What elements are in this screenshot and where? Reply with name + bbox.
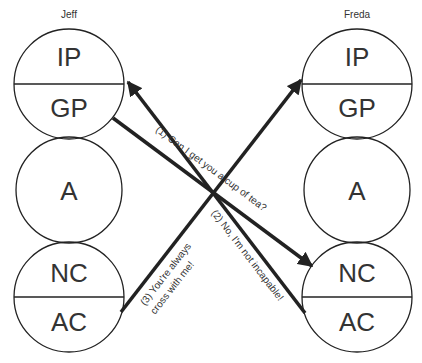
person-label-jeff: Jeff <box>61 9 77 20</box>
freda-nc-label: NC <box>338 258 376 288</box>
arrow-transaction-3 <box>121 80 301 312</box>
transaction-2-label: (2) No, I'm not incapable! <box>209 208 286 303</box>
ego-state-diagram: Jeff Freda IP GP A NC AC IP GP A NC AC (… <box>0 0 422 363</box>
jeff-ac-label: AC <box>51 307 87 337</box>
jeff-nc-label: NC <box>50 258 88 288</box>
freda-a-label: A <box>348 176 366 206</box>
freda-ip-label: IP <box>345 42 370 72</box>
arrow-transaction-1 <box>113 118 312 266</box>
freda-gp-label: GP <box>338 93 376 123</box>
person-label-freda: Freda <box>344 9 371 20</box>
transaction-1-label: (1) Can I get you a cup of tea? <box>154 124 269 214</box>
freda-ac-label: AC <box>339 307 375 337</box>
jeff-ip-label: IP <box>57 42 82 72</box>
jeff-gp-label: GP <box>50 93 88 123</box>
jeff-a-label: A <box>60 176 78 206</box>
